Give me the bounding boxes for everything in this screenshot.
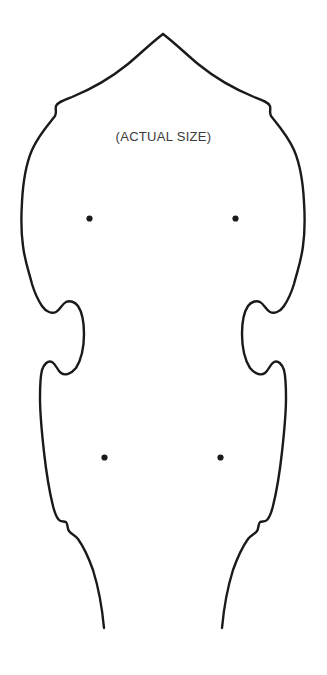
pattern-page: (ACTUAL SIZE) [0, 0, 327, 675]
pattern-outline-drawing [0, 0, 327, 675]
upper-right-dot [232, 215, 238, 221]
upper-left-dot [86, 215, 92, 221]
lower-right-dot [217, 454, 223, 460]
page-background [0, 0, 327, 675]
lower-left-dot [101, 454, 107, 460]
actual-size-label: (ACTUAL SIZE) [0, 129, 327, 144]
